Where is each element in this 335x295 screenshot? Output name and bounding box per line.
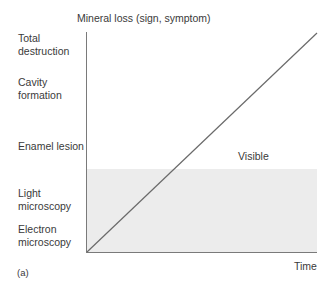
y-label-line: Light	[18, 187, 71, 200]
y-label-line: formation	[18, 89, 62, 102]
visible-annotation: Visible	[238, 150, 269, 163]
not-visible-region	[87, 169, 317, 252]
y-label-electron-microscopy: Electron microscopy	[18, 223, 71, 249]
y-label-total-destruction: Total destruction	[18, 32, 69, 58]
y-label-line: Cavity	[18, 76, 62, 89]
y-label-line: microscopy	[18, 236, 71, 249]
x-axis-label: Time	[294, 260, 317, 273]
y-label-line: Electron	[18, 223, 71, 236]
y-label-line: Total	[18, 32, 69, 45]
y-label-line: destruction	[18, 45, 69, 58]
panel-label: (a)	[17, 266, 29, 279]
chart-title: Mineral loss (sign, symptom)	[77, 12, 211, 25]
y-label-light-microscopy: Light microscopy	[18, 187, 71, 213]
y-label-line: microscopy	[18, 200, 71, 213]
y-label-cavity-formation: Cavity formation	[18, 76, 62, 102]
y-label-enamel-lesion: Enamel lesion	[18, 140, 84, 153]
